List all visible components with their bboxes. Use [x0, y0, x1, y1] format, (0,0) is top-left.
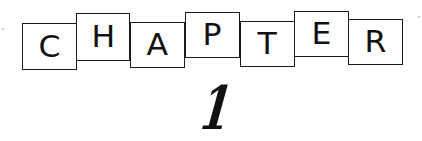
letter: H — [91, 22, 115, 52]
speck-mark — [2, 28, 4, 30]
letter: P — [203, 20, 222, 50]
speck-mark — [418, 16, 420, 18]
letter-box-t: T — [240, 21, 295, 67]
letter-box-a: A — [130, 22, 185, 68]
letter: C — [38, 32, 60, 62]
letter-box-e: E — [294, 11, 349, 57]
letter: R — [365, 27, 387, 57]
chapter-number: 1 — [198, 78, 236, 138]
letter-box-c: C — [22, 23, 77, 70]
letter: A — [147, 30, 169, 60]
letter-box-p: P — [185, 12, 240, 58]
letter-box-h: H — [76, 13, 130, 61]
letter-box-r: R — [348, 19, 403, 65]
letter: T — [258, 29, 277, 59]
letter: E — [312, 19, 332, 49]
